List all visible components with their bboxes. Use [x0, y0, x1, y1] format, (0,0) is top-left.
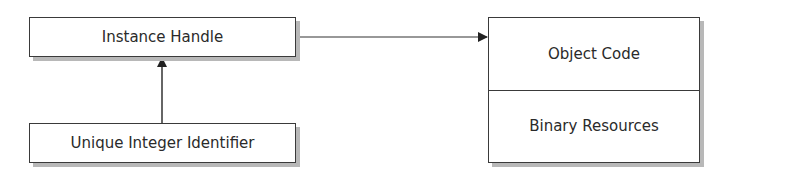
module-box: Object Code Binary Resources	[488, 17, 700, 163]
binary-resources-label: Binary Resources	[529, 117, 659, 135]
binary-resources-section: Binary Resources	[489, 90, 699, 163]
instance-handle-label: Instance Handle	[102, 28, 223, 46]
object-code-section: Object Code	[489, 18, 699, 90]
instance-handle-box: Instance Handle	[29, 17, 296, 57]
unique-integer-identifier-box: Unique Integer Identifier	[29, 123, 296, 163]
object-code-label: Object Code	[548, 45, 640, 63]
unique-integer-identifier-label: Unique Integer Identifier	[71, 134, 255, 152]
